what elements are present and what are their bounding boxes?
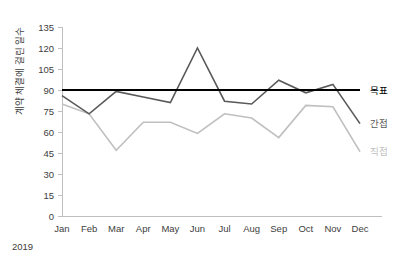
x-tick-label-nov: Nov [324, 223, 341, 234]
y-tick-label: 75 [43, 106, 54, 117]
legend-label-target: 목표 [370, 85, 388, 96]
x-tick-label-may: May [161, 223, 179, 234]
x-tick-label-sep: Sep [270, 223, 287, 234]
series-line-indirect [62, 48, 360, 124]
y-tick-label: 60 [43, 127, 54, 138]
y-tick-label: 15 [43, 190, 54, 201]
y-tick-label: 135 [38, 22, 54, 33]
x-tick-label-apr: Apr [136, 223, 151, 234]
y-tick-label: 120 [38, 43, 54, 54]
y-tick-label: 30 [43, 169, 54, 180]
series-line-direct [62, 104, 360, 152]
x-tick-label-jun: Jun [190, 223, 205, 234]
legend-label-indirect: 간접 [370, 118, 388, 129]
line-chart: 계약 체결에 걸린 일수 1351201059075604530150JanFe… [0, 0, 395, 262]
x-tick-label-jan: Jan [54, 223, 69, 234]
x-tick-label-mar: Mar [108, 223, 124, 234]
y-tick-label: 0 [49, 211, 54, 222]
x-tick-label-aug: Aug [243, 223, 260, 234]
x-tick-label-oct: Oct [298, 223, 313, 234]
x-axis-period-label: 2019 [12, 241, 33, 252]
x-tick-label-feb: Feb [81, 223, 97, 234]
x-tick-label-dec: Dec [352, 223, 369, 234]
plot-area: 1351201059075604530150JanFebMarAprMayJun… [0, 0, 395, 262]
x-tick-label-jul: Jul [218, 223, 230, 234]
y-tick-label: 90 [43, 85, 54, 96]
legend-label-direct: 직접 [370, 146, 388, 157]
y-tick-label: 105 [38, 64, 54, 75]
y-tick-label: 45 [43, 148, 54, 159]
